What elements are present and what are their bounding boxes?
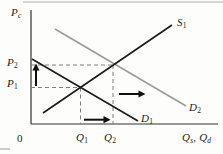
demand2-label: D2 — [189, 101, 201, 113]
demand-shift-arrow-head — [139, 90, 146, 97]
price1-label: P1 — [7, 77, 18, 89]
quantity-right-arrow-head — [104, 116, 111, 123]
quantity-right-arrow — [84, 116, 111, 123]
supply-curve-s1 — [43, 25, 172, 113]
demand1-label: D1 — [141, 112, 153, 124]
supply1-label: S1 — [177, 16, 187, 28]
x-axis-label: Qs, Qd — [182, 131, 211, 143]
price2-label: P2 — [7, 56, 18, 68]
y-axis-label: Pc — [11, 6, 21, 18]
qty1-label: Q1 — [76, 131, 88, 143]
demand-shift-arrow — [119, 90, 146, 97]
qty2-label: Q2 — [104, 131, 116, 143]
supply-demand-diagram: Pc P2 P1 0 Q1 Q2 Qs, Qd S1 D1 D2 — [0, 0, 223, 154]
origin-label: 0 — [17, 132, 23, 144]
price-up-arrow — [32, 64, 39, 87]
